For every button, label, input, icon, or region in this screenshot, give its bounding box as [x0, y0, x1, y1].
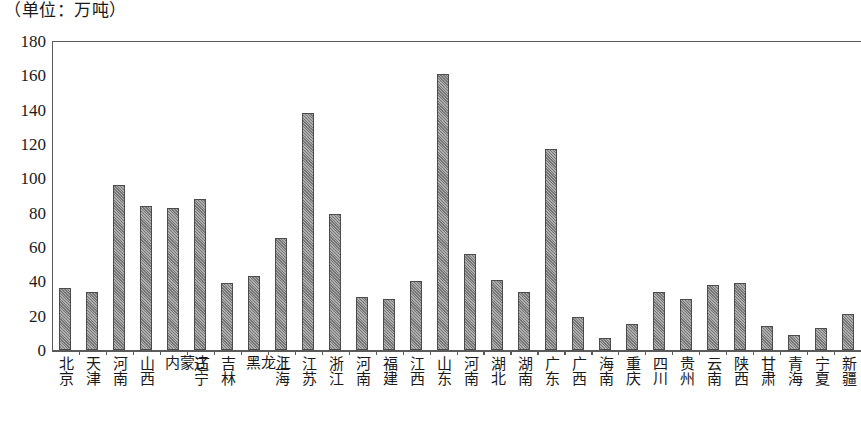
bar — [707, 285, 719, 350]
x-axis: 北京天津河南山西内蒙古辽宁吉林黑龙江上海江苏浙江河南福建江西山东河南湖北湖南广东… — [52, 356, 861, 422]
x-tick — [510, 350, 511, 355]
y-tick-label: 160 — [21, 67, 47, 84]
bar — [545, 149, 557, 350]
x-tick — [591, 350, 592, 355]
bar — [761, 326, 773, 350]
x-tick-label: 江西 — [409, 356, 424, 386]
bar — [680, 299, 692, 351]
x-tick — [564, 350, 565, 355]
bar — [491, 280, 503, 350]
bar — [842, 314, 854, 350]
x-tick — [483, 350, 484, 355]
x-tick-label: 吉林 — [220, 356, 235, 386]
x-tick-label: 湖北 — [489, 356, 504, 386]
x-tick — [780, 350, 781, 355]
bar — [383, 299, 395, 351]
x-tick-label: 宁夏 — [813, 356, 828, 386]
x-tick — [699, 350, 700, 355]
bar — [518, 292, 530, 350]
x-tick — [214, 350, 215, 355]
x-tick — [295, 350, 296, 355]
bar — [221, 283, 233, 350]
y-tick-label: 180 — [21, 33, 47, 50]
bar — [113, 185, 125, 350]
x-tick — [133, 350, 134, 355]
y-tick-label: 80 — [29, 204, 46, 221]
bar — [572, 317, 584, 350]
bar — [437, 74, 449, 350]
bar — [275, 238, 287, 350]
bars-container — [52, 41, 861, 350]
x-tick — [430, 350, 431, 355]
y-axis: 020406080100120140160180 — [0, 41, 46, 350]
bar — [86, 292, 98, 350]
x-tick-label: 河南 — [355, 356, 370, 386]
x-tick — [403, 350, 404, 355]
x-tick-label: 山东 — [436, 356, 451, 386]
bar — [167, 208, 179, 350]
x-tick-label: 甘肃 — [759, 356, 774, 386]
x-tick — [645, 350, 646, 355]
x-tick-label: 广西 — [570, 356, 585, 386]
x-tick-label: 重庆 — [624, 356, 639, 386]
x-tick — [618, 350, 619, 355]
chart-unit-title: （单位：万吨） — [4, 2, 127, 19]
x-tick-label: 内蒙古 — [165, 356, 181, 371]
y-tick-label: 100 — [21, 170, 47, 187]
x-tick-label: 云南 — [705, 356, 720, 386]
bar — [815, 328, 827, 350]
y-tick-label: 60 — [29, 239, 46, 256]
bar-chart-figure: （单位：万吨） 020406080100120140160180 北京天津河南山… — [0, 0, 861, 422]
x-tick — [322, 350, 323, 355]
x-tick — [726, 350, 727, 355]
x-tick — [376, 350, 377, 355]
x-tick — [753, 350, 754, 355]
x-tick — [79, 350, 80, 355]
x-tick — [160, 350, 161, 355]
x-tick-label: 海南 — [597, 356, 612, 386]
y-tick-label: 120 — [21, 136, 47, 153]
bar — [599, 338, 611, 350]
x-tick — [457, 350, 458, 355]
y-tick-label: 20 — [29, 307, 46, 324]
x-tick — [834, 350, 835, 355]
bar — [464, 254, 476, 350]
x-tick-label: 河南 — [112, 356, 127, 386]
x-tick-label: 贵州 — [678, 356, 693, 386]
y-tick-label: 40 — [29, 273, 46, 290]
bar — [59, 288, 71, 350]
x-tick — [672, 350, 673, 355]
x-tick-label: 四川 — [651, 356, 666, 386]
bar — [302, 113, 314, 350]
x-tick-label: 江苏 — [301, 356, 316, 386]
bar — [626, 324, 638, 350]
x-tick — [537, 350, 538, 355]
x-tick — [807, 350, 808, 355]
x-tick — [349, 350, 350, 355]
x-tick-label: 天津 — [85, 356, 100, 386]
y-tick-label: 0 — [38, 342, 47, 359]
bar — [653, 292, 665, 350]
x-tick-label: 山西 — [139, 356, 154, 386]
bar — [248, 276, 260, 350]
bar — [734, 283, 746, 350]
x-tick-label: 上海 — [274, 356, 289, 386]
x-tick — [106, 350, 107, 355]
bar — [788, 335, 800, 350]
y-tick-label: 140 — [21, 101, 47, 118]
x-tick-label: 黑龙江 — [246, 356, 262, 371]
x-tick-label: 河南 — [462, 356, 477, 386]
x-tick-label: 北京 — [58, 356, 73, 386]
x-tick-label: 新疆 — [840, 356, 855, 386]
bar — [194, 199, 206, 350]
x-tick — [241, 350, 242, 355]
x-tick-label: 广东 — [543, 356, 558, 386]
x-tick-label: 青海 — [786, 356, 801, 386]
bar — [329, 214, 341, 350]
bar — [356, 297, 368, 350]
x-tick-label: 福建 — [382, 356, 397, 386]
x-tick-label: 浙江 — [328, 356, 343, 386]
bar — [410, 281, 422, 350]
x-tick-label: 辽宁 — [193, 356, 208, 386]
x-tick-label: 湖南 — [516, 356, 531, 386]
